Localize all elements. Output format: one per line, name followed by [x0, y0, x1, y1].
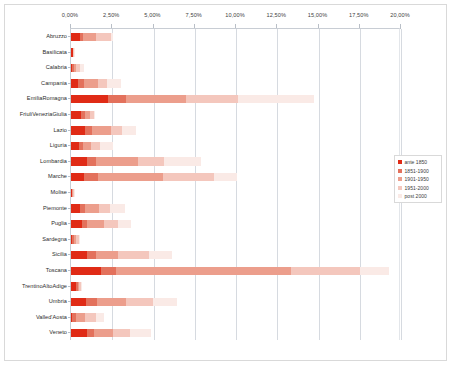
- bar-segment[interactable]: [110, 204, 125, 213]
- bar-segment[interactable]: [84, 173, 98, 182]
- bar-segment[interactable]: [97, 298, 126, 307]
- stacked-bar[interactable]: [71, 33, 113, 42]
- stacked-bar[interactable]: [71, 142, 113, 151]
- bar-segment[interactable]: [87, 220, 104, 229]
- legend-item[interactable]: 1951-2000: [398, 185, 439, 191]
- bar-segment[interactable]: [99, 204, 110, 213]
- bar-segment[interactable]: [149, 251, 172, 260]
- bar-segment[interactable]: [291, 267, 359, 276]
- bar-segment[interactable]: [96, 313, 104, 322]
- bar-segment[interactable]: [79, 235, 81, 244]
- stacked-bar[interactable]: [71, 95, 314, 104]
- bar-row: Veneto: [71, 325, 401, 341]
- bar-segment[interactable]: [138, 157, 164, 166]
- stacked-bar[interactable]: [71, 267, 389, 276]
- bar-segment[interactable]: [163, 173, 214, 182]
- bar-segment[interactable]: [96, 251, 118, 260]
- bar-segment[interactable]: [98, 79, 107, 88]
- bar-segment[interactable]: [186, 95, 238, 104]
- bar-segment[interactable]: [83, 142, 90, 151]
- bar-segment[interactable]: [87, 329, 94, 338]
- bar-segment[interactable]: [100, 142, 113, 151]
- stacked-bar[interactable]: [71, 220, 131, 229]
- stacked-bar[interactable]: [71, 48, 74, 57]
- bar-segment[interactable]: [91, 142, 100, 151]
- bar-segment[interactable]: [71, 126, 85, 135]
- bar-segment[interactable]: [238, 95, 313, 104]
- y-axis-category-label: EmiliaRomagna: [27, 91, 71, 107]
- stacked-bar[interactable]: [71, 173, 237, 182]
- stacked-bar[interactable]: [71, 235, 80, 244]
- stacked-bar[interactable]: [71, 111, 94, 120]
- bar-segment[interactable]: [113, 329, 130, 338]
- stacked-bar[interactable]: [71, 313, 104, 322]
- bar-segment[interactable]: [360, 267, 390, 276]
- bar-segment[interactable]: [83, 33, 95, 42]
- bar-segment[interactable]: [86, 298, 98, 307]
- bar-row: Liguria: [71, 138, 401, 154]
- bar-segment[interactable]: [126, 298, 152, 307]
- bar-segment[interactable]: [96, 33, 112, 42]
- bar-segment[interactable]: [76, 313, 85, 322]
- bar-segment[interactable]: [111, 126, 123, 135]
- bar-segment[interactable]: [118, 220, 131, 229]
- bar-segment[interactable]: [85, 204, 99, 213]
- bar-segment[interactable]: [116, 267, 292, 276]
- bar-segment[interactable]: [71, 111, 81, 120]
- bar-segment[interactable]: [130, 329, 151, 338]
- bar-segment[interactable]: [108, 95, 126, 104]
- legend[interactable]: ante 18501851-19001901-19501951-2000post…: [394, 155, 442, 203]
- bar-segment[interactable]: [71, 142, 79, 151]
- stacked-bar[interactable]: [71, 157, 201, 166]
- bar-segment[interactable]: [71, 220, 82, 229]
- bar-segment[interactable]: [71, 157, 87, 166]
- bar-segment[interactable]: [164, 157, 201, 166]
- bar-segment[interactable]: [104, 220, 118, 229]
- bar-segment[interactable]: [94, 329, 113, 338]
- bar-segment[interactable]: [98, 173, 162, 182]
- legend-label: 1901-1950: [405, 176, 429, 182]
- legend-item[interactable]: 1851-1900: [398, 168, 439, 174]
- bar-segment[interactable]: [87, 251, 96, 260]
- stacked-bar[interactable]: [71, 204, 125, 213]
- bar-segment[interactable]: [85, 313, 96, 322]
- bar-row: Calabria: [71, 60, 401, 76]
- legend-item[interactable]: 1901-1950: [398, 176, 439, 182]
- bar-segment[interactable]: [71, 298, 86, 307]
- bar-segment[interactable]: [92, 126, 110, 135]
- stacked-bar[interactable]: [71, 329, 151, 338]
- bar-segment[interactable]: [122, 126, 136, 135]
- bar-segment[interactable]: [84, 79, 98, 88]
- bar-segment[interactable]: [111, 33, 113, 42]
- stacked-bar[interactable]: [71, 64, 84, 73]
- bar-segment[interactable]: [96, 157, 138, 166]
- bar-segment[interactable]: [71, 267, 101, 276]
- bar-segment[interactable]: [71, 33, 80, 42]
- stacked-bar[interactable]: [71, 298, 177, 307]
- bar-segment[interactable]: [71, 95, 108, 104]
- stacked-bar[interactable]: [71, 79, 121, 88]
- bar-segment[interactable]: [71, 79, 78, 88]
- bar-segment[interactable]: [71, 204, 80, 213]
- stacked-bar[interactable]: [71, 251, 172, 260]
- bar-segment[interactable]: [85, 126, 92, 135]
- bar-segment[interactable]: [101, 267, 116, 276]
- bar-segment[interactable]: [71, 173, 84, 182]
- bar-segment[interactable]: [153, 298, 177, 307]
- bar-segment[interactable]: [80, 64, 84, 73]
- stacked-bar[interactable]: [71, 282, 82, 291]
- bar-segment[interactable]: [118, 251, 149, 260]
- bar-segment[interactable]: [87, 157, 96, 166]
- bar-segment[interactable]: [214, 173, 237, 182]
- bar-segment[interactable]: [107, 79, 121, 88]
- bar-segment[interactable]: [71, 251, 87, 260]
- bar-segment[interactable]: [126, 95, 186, 104]
- x-axis-tick-label: 20,00%: [390, 12, 410, 18]
- stacked-bar[interactable]: [71, 189, 74, 198]
- bar-row: Lazio: [71, 123, 401, 139]
- legend-item[interactable]: post 2000: [398, 193, 439, 199]
- stacked-bar[interactable]: [71, 126, 136, 135]
- bar-segment[interactable]: [71, 329, 87, 338]
- legend-item[interactable]: ante 1850: [398, 159, 439, 165]
- y-axis-category-label: FriuliVeneziaGiulia: [20, 107, 71, 123]
